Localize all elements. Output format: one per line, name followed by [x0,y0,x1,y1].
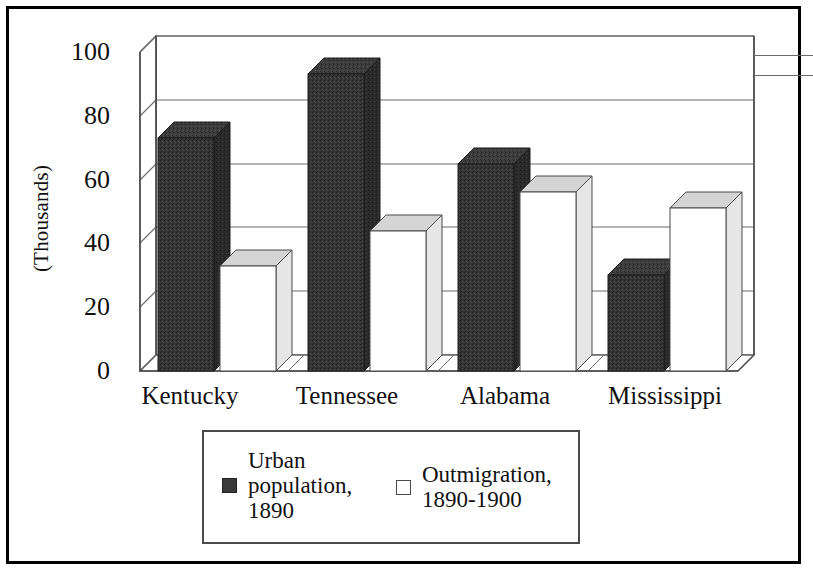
chart-legend: Urbanpopulation,1890 Outmigration,1890-1… [202,430,580,544]
bar-tennessee-urban [308,58,380,371]
bar-kentucky-outmigration [220,250,292,371]
legend-label-urban-population: Urbanpopulation,1890 [248,448,352,523]
bar-alabama-urban [458,148,530,371]
bar-tennessee-outmigration [370,215,442,371]
bar-mississippi-outmigration [670,192,742,371]
cutoff-callout-line-top [754,55,813,56]
cutoff-callout-line-bottom [754,75,813,76]
bar-mississippi-urban [608,259,680,371]
legend-item-outmigration[interactable]: Outmigration,1890-1900 [396,462,576,512]
legend-item-urban-population[interactable]: Urbanpopulation,1890 [222,448,392,523]
legend-label-outmigration: Outmigration,1890-1900 [422,462,552,512]
bar-alabama-outmigration [520,176,592,371]
legend-swatch-urban-icon [222,478,237,493]
bar-chart: (Thousands) 100 80 60 40 20 0 Kentucky T… [0,0,813,577]
bar-kentucky-urban [158,122,230,371]
legend-swatch-outmigration-icon [396,480,411,495]
